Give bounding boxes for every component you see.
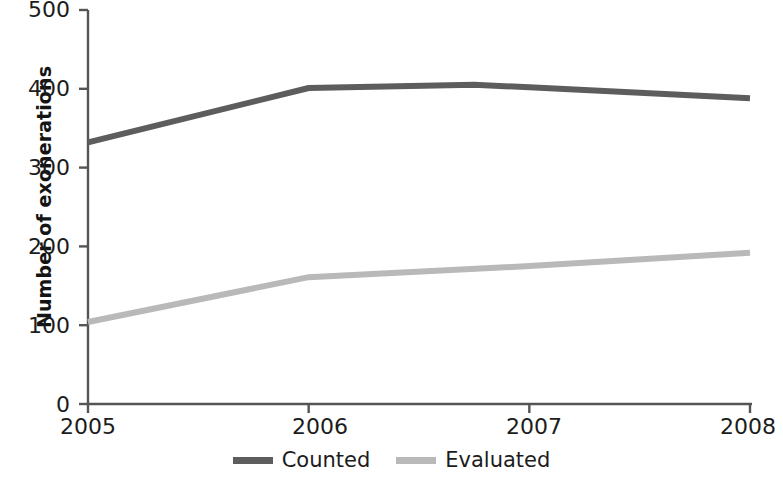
legend-swatch-evaluated [396, 457, 436, 464]
legend-item-counted: Counted [233, 450, 371, 471]
series-line-evaluated [88, 253, 750, 322]
legend-item-evaluated: Evaluated [396, 450, 550, 471]
x-axis-ticks [88, 404, 750, 413]
plot-area [0, 0, 783, 481]
series-line-counted [88, 85, 750, 143]
legend-label-evaluated: Evaluated [445, 450, 550, 471]
chart-legend: Counted Evaluated [0, 450, 783, 471]
line-chart: Number of exonerations 500 400 300 200 1… [0, 0, 783, 481]
legend-swatch-counted [233, 457, 273, 464]
series-lines [88, 85, 750, 322]
y-axis-ticks [79, 10, 88, 404]
axis-lines [88, 10, 752, 404]
legend-label-counted: Counted [282, 450, 371, 471]
